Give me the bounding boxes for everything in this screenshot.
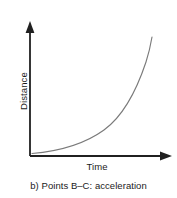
y-axis-label: Distance <box>18 74 29 110</box>
distance-time-figure: Distance Time b) Points B–C: acceleratio… <box>0 0 177 198</box>
distance-curve <box>32 37 152 154</box>
figure-caption: b) Points B–C: acceleration <box>0 180 177 191</box>
x-axis-label: Time <box>61 161 133 172</box>
x-axis-arrow-icon <box>160 152 172 161</box>
y-axis-arrow-icon <box>26 21 35 33</box>
